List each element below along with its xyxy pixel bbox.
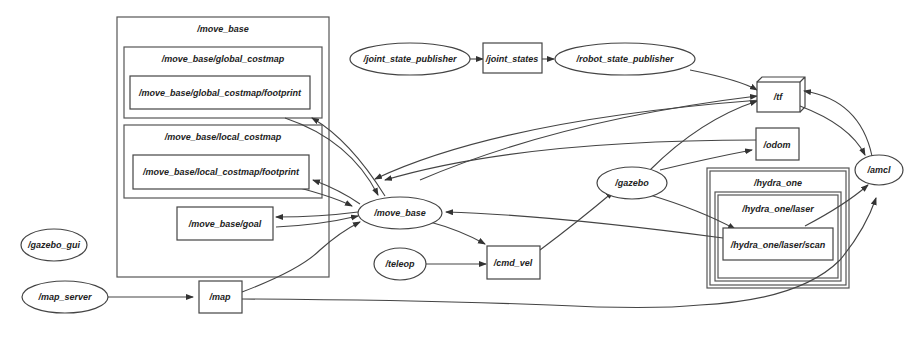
svg-text:/teleop: /teleop (384, 259, 415, 269)
node-joint-states[interactable]: /joint_states (483, 43, 542, 73)
svg-text:/move_base: /move_base (373, 208, 426, 218)
svg-text:/joint_states: /joint_states (485, 54, 539, 64)
node-amcl[interactable]: /amcl (855, 155, 903, 185)
svg-text:/tf: /tf (773, 92, 783, 102)
svg-text:/move_base/goal: /move_base/goal (188, 219, 262, 229)
ros-graph: /move_base /move_base/global_costmap /mo… (0, 0, 916, 337)
svg-text:/cmd_vel: /cmd_vel (493, 258, 533, 268)
node-cmd-vel[interactable]: /cmd_vel (487, 246, 540, 279)
svg-text:/gazebo: /gazebo (614, 178, 649, 188)
node-map-server[interactable]: /map_server (22, 281, 108, 313)
node-teleop[interactable]: /teleop (374, 248, 426, 280)
svg-text:/gazebo_gui: /gazebo_gui (27, 240, 81, 250)
node-map[interactable]: /map (199, 281, 242, 313)
node-global-footprint[interactable]: /move_base/global_costmap/footprint (130, 76, 310, 109)
svg-text:/joint_state_publisher: /joint_state_publisher (362, 54, 457, 64)
svg-text:/map: /map (208, 292, 231, 302)
node-hydra-laser-scan[interactable]: /hydra_one/laser/scan (723, 228, 833, 260)
svg-text:/move_base/global_costmap: /move_base/global_costmap (161, 54, 285, 64)
node-tf[interactable]: /tf (757, 77, 805, 112)
svg-text:/amcl: /amcl (866, 165, 891, 175)
svg-text:/hydra_one/laser: /hydra_one/laser (741, 204, 814, 214)
node-joint-state-publisher[interactable]: /joint_state_publisher (350, 43, 470, 75)
svg-text:/robot_state_publisher: /robot_state_publisher (575, 54, 674, 64)
node-robot-state-publisher[interactable]: /robot_state_publisher (555, 43, 695, 75)
node-odom[interactable]: /odom (756, 128, 799, 160)
node-goal[interactable]: /move_base/goal (177, 207, 273, 240)
svg-text:/odom: /odom (763, 140, 791, 150)
node-move-base[interactable]: /move_base (358, 197, 442, 229)
node-gazebo[interactable]: /gazebo (597, 167, 667, 199)
svg-text:/hydra_one: /hydra_one (753, 178, 802, 188)
svg-text:/move_base/local_costmap/footp: /move_base/local_costmap/footprint (142, 167, 300, 177)
svg-text:/move_base/local_costmap: /move_base/local_costmap (164, 132, 282, 142)
svg-text:/move_base: /move_base (196, 24, 249, 34)
svg-text:/hydra_one/laser/scan: /hydra_one/laser/scan (730, 240, 826, 250)
svg-text:/move_base/global_costmap/foot: /move_base/global_costmap/footprint (138, 88, 302, 98)
node-local-footprint[interactable]: /move_base/local_costmap/footprint (133, 155, 309, 189)
svg-text:/map_server: /map_server (37, 292, 92, 302)
node-gazebo-gui[interactable]: /gazebo_gui (21, 229, 87, 261)
